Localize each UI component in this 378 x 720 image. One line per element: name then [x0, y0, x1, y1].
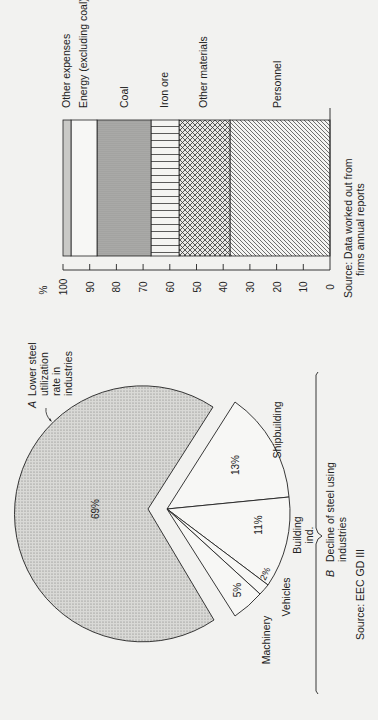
label-other-expenses: Other expenses	[60, 34, 72, 108]
bar-segment-iron-ore	[151, 120, 179, 256]
tick-label: 30	[245, 281, 256, 293]
value-label-building: 11%	[253, 515, 264, 534]
annotation-b-letter: B	[324, 570, 336, 577]
annotation-b-line-2: industries	[336, 517, 348, 562]
group-brace	[316, 372, 322, 694]
label-coal: Coal	[118, 86, 130, 108]
annotation-b: B Decline of steel using industries	[324, 462, 348, 577]
figure: 100 90 80 70 60 50 40 30 20 10 0 % Other…	[0, 0, 378, 720]
bar-source-line-2: firms annual reports	[354, 183, 366, 276]
value-label-main: 69%	[90, 499, 101, 519]
category-label-shipbuilding: Shipbuilding	[271, 401, 283, 458]
bar-segment-other-materials	[179, 120, 230, 256]
category-label-vehicles: Vehicles	[280, 577, 292, 616]
value-label-machinery: 5%	[232, 583, 243, 598]
tick-label: 100	[58, 278, 69, 295]
annotation-b-line-1: Decline of steel using	[324, 462, 336, 562]
annotation-a-line-2: utilization	[38, 352, 50, 396]
pie-source: Source: EEC GD III	[354, 549, 366, 640]
category-label-building-2: ind.	[303, 527, 315, 544]
annotation-a-letter: A	[26, 401, 38, 409]
pie-chart: 69% 13% 11% 2% 5% Shipbuilding Building …	[14, 342, 366, 694]
bar-segment-coal	[97, 120, 151, 256]
label-iron-ore: Iron ore	[158, 72, 170, 108]
tick-label: 10	[298, 281, 309, 293]
bar-source-line-1: Source: Data worked out from	[342, 158, 354, 298]
tick-label: 20	[272, 281, 283, 293]
category-label-machinery: Machinery	[260, 615, 272, 664]
label-other-materials: Other materials	[197, 36, 209, 108]
tick-label: 60	[165, 281, 176, 293]
tick-label: 70	[138, 281, 149, 293]
bar-segment-personnel	[230, 120, 330, 256]
y-axis-unit: %	[38, 285, 49, 294]
bar-segment-energy	[71, 120, 97, 256]
tick-label: 0	[325, 284, 336, 290]
tick-label: 80	[111, 281, 122, 293]
annotation-a-line-4: industries	[62, 351, 74, 396]
label-energy: Energy (excluding coal)	[77, 0, 89, 108]
stacked-bar-chart: 100 90 80 70 60 50 40 30 20 10 0 % Other…	[38, 0, 366, 298]
annotation-a-line-3: rate in	[50, 367, 62, 396]
bar-segment-other-expenses	[63, 120, 71, 256]
value-label-shipbuilding: 13%	[230, 455, 241, 475]
category-label-building: Building	[291, 516, 303, 554]
annotation-a-line-1: Lower steel	[26, 342, 38, 396]
tick-label: 90	[85, 281, 96, 293]
tick-label: 50	[192, 281, 203, 293]
label-personnel: Personnel	[271, 61, 283, 108]
tick-label: 40	[218, 281, 229, 293]
